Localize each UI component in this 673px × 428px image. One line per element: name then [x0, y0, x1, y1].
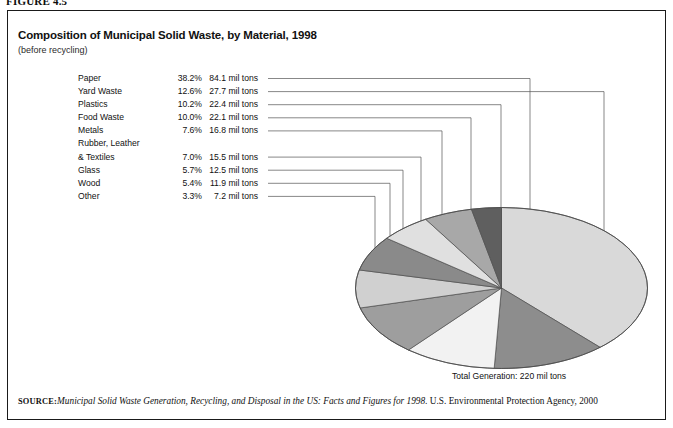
- source-line: SOURCE:Municipal Solid Waste Generation,…: [18, 396, 598, 406]
- pie-chart: [0, 0, 673, 428]
- pie-slices: [356, 207, 648, 368]
- source-label: SOURCE:: [18, 397, 57, 406]
- source-italic: Municipal Solid Waste Generation, Recycl…: [57, 396, 427, 406]
- source-plain: U.S. Environmental Protection Agency, 20…: [427, 396, 597, 406]
- leader-line: [268, 196, 375, 258]
- total-generation-label: Total Generation: 220 mil tons: [452, 371, 566, 381]
